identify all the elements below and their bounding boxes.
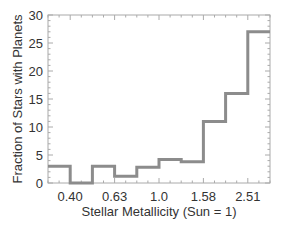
x-tick-label: 1.58: [191, 189, 216, 204]
y-axis-label: Fraction of Stars with Planets: [10, 14, 25, 184]
y-tick-label: 15: [29, 92, 43, 107]
axes-frame: [48, 15, 270, 183]
x-axis-label: Stellar Metallicity (Sun = 1): [82, 204, 237, 219]
x-tick-label: 2.51: [235, 189, 260, 204]
chart-canvas: 051015202530 0.400.631.01.582.51 Stellar…: [0, 0, 284, 225]
histogram-step-line: [48, 32, 270, 183]
y-tick-label: 5: [36, 148, 43, 163]
y-axis-ticks: 051015202530: [29, 8, 270, 191]
y-tick-label: 0: [36, 176, 43, 191]
histogram-chart: 051015202530 0.400.631.01.582.51 Stellar…: [0, 0, 284, 225]
x-axis-ticks: 0.400.631.01.582.51: [48, 15, 270, 204]
x-tick-label: 1.0: [150, 189, 168, 204]
y-tick-label: 30: [29, 8, 43, 23]
x-tick-label: 0.63: [102, 189, 127, 204]
x-tick-label: 0.40: [58, 189, 83, 204]
y-tick-label: 20: [29, 64, 43, 79]
y-tick-label: 25: [29, 36, 43, 51]
y-tick-label: 10: [29, 120, 43, 135]
